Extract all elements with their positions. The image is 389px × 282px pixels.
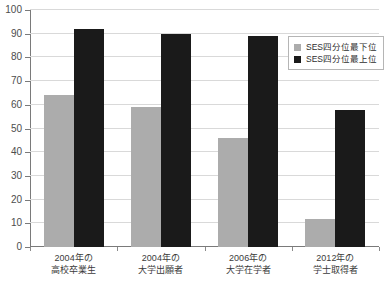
x-label-line2: 学士取得者 — [292, 264, 379, 276]
x-axis-category-label-4: 2012年の学士取得者 — [292, 252, 379, 276]
y-axis-tick-label: 30 — [0, 171, 22, 181]
y-axis-tick-label-wrap: 90 — [0, 29, 22, 39]
bar-high-4 — [335, 110, 365, 247]
x-axis-category-label-2: 2004年の大学出願者 — [117, 252, 204, 276]
bar-chart-figure: 0102030405060708090100 2004年の高校卒業生2004年の… — [0, 0, 389, 282]
x-axis-category-label-3: 2006年の大学在学者 — [205, 252, 292, 276]
legend-item-series-low: SES四分位最下位 — [294, 41, 377, 53]
legend-label-high: SES四分位最上位 — [306, 53, 377, 65]
y-axis-tick-label: 20 — [0, 195, 22, 205]
x-axis-tick-mark — [292, 247, 293, 251]
x-label-line1: 2006年の — [229, 253, 267, 263]
y-axis-tick-label: 100 — [0, 5, 22, 15]
legend-item-series-high: SES四分位最上位 — [294, 53, 377, 65]
bar-low-3 — [218, 138, 248, 247]
x-label-line2: 大学出願者 — [117, 264, 204, 276]
y-axis-tick-label-wrap: 70 — [0, 76, 22, 86]
y-axis-tick-label-wrap: 80 — [0, 52, 22, 62]
y-axis-tick-label-wrap: 0 — [0, 242, 22, 252]
legend-swatch-icon-high — [294, 56, 301, 63]
legend-label-low: SES四分位最下位 — [306, 41, 377, 53]
x-axis-tick-mark — [30, 247, 31, 251]
x-axis-category-label-1: 2004年の高校卒業生 — [30, 252, 117, 276]
y-axis-tick-label: 80 — [0, 52, 22, 62]
y-axis-tick-label: 60 — [0, 100, 22, 110]
y-axis-tick-label: 90 — [0, 29, 22, 39]
y-axis-tick-label: 10 — [0, 218, 22, 228]
bar-low-2 — [131, 107, 161, 247]
y-axis-tick-label: 70 — [0, 76, 22, 86]
y-axis-tick-label: 50 — [0, 124, 22, 134]
y-axis-tick-label-wrap: 20 — [0, 195, 22, 205]
x-label-line2: 高校卒業生 — [30, 264, 117, 276]
x-axis-tick-mark — [117, 247, 118, 251]
y-axis-tick-label-wrap: 30 — [0, 171, 22, 181]
y-axis-tick-label: 0 — [0, 242, 22, 252]
y-axis-tick-label-wrap: 100 — [0, 5, 22, 15]
x-axis-tick-mark — [205, 247, 206, 251]
legend-swatch-icon-low — [294, 44, 301, 51]
bar-high-1 — [74, 29, 104, 247]
x-label-line1: 2004年の — [142, 253, 180, 263]
y-axis-tick-label-wrap: 50 — [0, 124, 22, 134]
y-axis-tick-label-wrap: 60 — [0, 100, 22, 110]
y-axis-tick-label: 40 — [0, 147, 22, 157]
y-axis-tick-label-wrap: 10 — [0, 218, 22, 228]
x-label-line2: 大学在学者 — [205, 264, 292, 276]
x-label-line1: 2004年の — [55, 253, 93, 263]
x-axis-tick-mark — [379, 247, 380, 251]
bar-high-3 — [248, 36, 278, 247]
bar-low-4 — [305, 219, 335, 247]
chart-legend: SES四分位最下位 SES四分位最上位 — [288, 36, 384, 70]
y-axis-tick-label-wrap: 40 — [0, 147, 22, 157]
bar-high-2 — [161, 34, 191, 247]
bar-low-1 — [44, 95, 74, 247]
x-label-line1: 2012年の — [316, 253, 354, 263]
